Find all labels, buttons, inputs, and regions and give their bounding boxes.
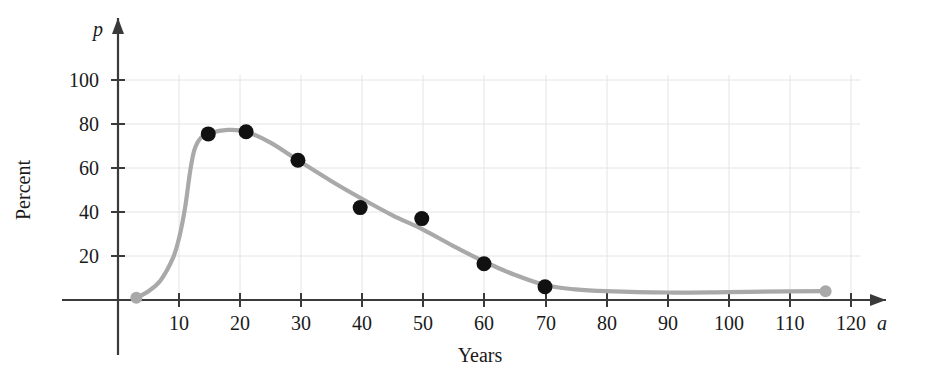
y-tick-labels: 100 80 60 40 20: [69, 69, 99, 267]
x-tick-label: 60: [474, 312, 494, 334]
figure-container: 10 20 30 40 50 60 70 80 90 100 110 120 1…: [0, 0, 926, 388]
x-tick-label: 100: [714, 312, 744, 334]
x-tick-label: 120: [836, 312, 866, 334]
x-axis-symbol: a: [877, 312, 887, 334]
data-point-marker: [538, 279, 553, 294]
x-tick-label: 50: [413, 312, 433, 334]
data-point-marker: [201, 126, 216, 141]
x-tick-label: 70: [536, 312, 556, 334]
y-axis: [111, 18, 125, 355]
grid-horizontal: [118, 80, 860, 256]
y-axis-title: Percent: [12, 160, 34, 220]
data-point-marker: [290, 153, 305, 168]
y-tick-label: 80: [79, 113, 99, 135]
x-tick-labels: 10 20 30 40 50 60 70 80 90 100 110 120: [169, 312, 866, 334]
x-tick-label: 110: [775, 312, 804, 334]
x-tick-label: 30: [291, 312, 311, 334]
x-tick-label: 20: [230, 312, 250, 334]
data-point-marker: [353, 200, 368, 215]
grid-vertical: [179, 75, 851, 300]
x-tick-label: 80: [597, 312, 617, 334]
x-tick-label: 10: [169, 312, 189, 334]
percent-vs-years-chart: 10 20 30 40 50 60 70 80 90 100 110 120 1…: [0, 0, 926, 388]
data-point-marker: [239, 124, 254, 139]
x-axis-title: Years: [458, 344, 503, 366]
y-tick-label: 20: [79, 245, 99, 267]
data-point-marker: [477, 256, 492, 271]
y-tick-label: 40: [79, 201, 99, 223]
y-tick-label: 100: [69, 69, 99, 91]
data-point-marker: [414, 211, 429, 226]
x-axis: [62, 293, 886, 307]
y-tick-label: 60: [79, 157, 99, 179]
x-tick-label: 40: [352, 312, 372, 334]
y-axis-symbol: p: [91, 18, 103, 41]
curve-endpoint-marker: [130, 292, 142, 304]
x-tick-label: 90: [658, 312, 678, 334]
curve-endpoint-marker: [820, 285, 832, 297]
